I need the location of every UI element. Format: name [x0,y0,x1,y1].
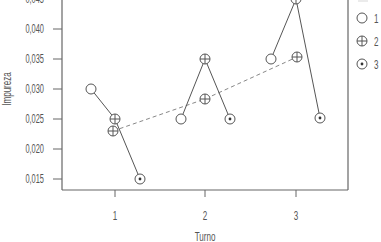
interaction-plot: 0,045 0,040 0,035 0,030 0,025 0,020 0,01… [0,0,381,242]
y-tick-label: 0,020 [25,142,44,155]
y-tick-label: 0,025 [25,112,44,125]
y-axis-label: Impureza [0,72,13,106]
legend-label: 3 [374,57,378,71]
x-axis-label: Turno [195,229,216,242]
circle-plus-icon [292,52,302,62]
legend-label: 1 [374,11,378,25]
circle-plus-icon [357,36,367,46]
y-tick-label: 0,035 [25,52,44,65]
legend-item-2: 2 [357,34,378,48]
legend: 1 2 3 [357,0,378,71]
circle-dot-icon [135,174,145,184]
x-axis: 1 2 3 Turno [113,190,298,242]
y-tick-label: 0,045 [25,0,44,5]
open-circle-icon [266,54,276,64]
x-tick-label: 3 [294,208,298,222]
circle-plus-icon [291,0,301,4]
y-axis: 0,045 0,040 0,035 0,030 0,025 0,020 0,01… [0,0,62,185]
y-tick-label: 0,040 [25,22,44,35]
circle-plus-icon [200,54,210,64]
open-circle-icon [86,84,96,94]
open-circle-icon [176,114,186,124]
circle-dot-icon [315,113,325,123]
legend-label: 2 [374,34,378,48]
open-circle-icon [357,13,367,23]
circle-plus-icon [110,114,120,124]
circle-plus-icon [108,126,118,136]
circle-plus-icon [200,94,210,104]
circle-dot-icon [357,59,367,69]
y-tick-label: 0,030 [25,82,44,95]
x-tick-label: 2 [203,208,207,222]
y-tick-label: 0,015 [25,172,44,185]
series-3-markers [135,113,325,184]
legend-item-1: 1 [357,11,378,25]
turno-lines [91,0,320,179]
series-1-markers [86,54,276,124]
mean-markers [108,52,302,136]
circle-dot-icon [225,114,235,124]
legend-item-3: 3 [357,57,378,71]
x-tick-label: 1 [113,208,117,222]
